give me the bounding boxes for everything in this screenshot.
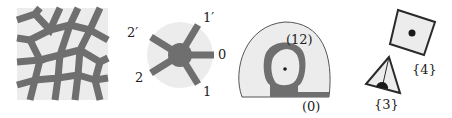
label-1prime: 1′ [203,10,214,25]
label-0: 0 [218,47,226,62]
region-panel: (12) (0) [239,22,330,114]
label-0-paren: (0) [302,99,320,114]
label-2prime: 2′ [127,25,138,40]
label-square: {4} [412,62,437,77]
star-panel: 1′ 0 1 2 2′ [127,10,226,99]
tiling-panel [17,8,108,100]
polygons-panel: {4} {3} [366,10,437,112]
label-12: (12) [286,32,313,47]
label-1: 1 [203,84,211,99]
label-triangle: {3} [374,97,399,112]
diagram-canvas: 1′ 0 1 2 2′ (12) (0) {4} {3} [0,0,452,118]
label-2: 2 [135,70,143,85]
